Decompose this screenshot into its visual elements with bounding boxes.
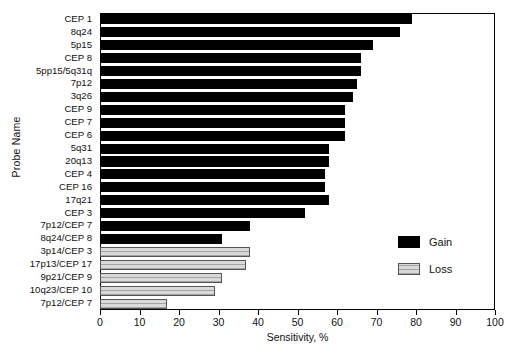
- y-tick-label: 3q26: [0, 91, 92, 101]
- table-row: [100, 144, 495, 154]
- table-row: [100, 92, 495, 102]
- y-tick-label: CEP 1: [0, 14, 92, 24]
- table-row: [100, 156, 495, 166]
- y-tick-label: 3p14/CEP 3: [0, 246, 92, 256]
- bar-gain: [100, 208, 305, 218]
- legend-item-loss: Loss: [398, 259, 494, 279]
- bar-gain: [100, 234, 222, 244]
- bar-gain: [100, 195, 329, 205]
- y-tick-label: 8q24: [0, 27, 92, 37]
- y-tick-label: 17q21: [0, 195, 92, 205]
- sensitivity-bar-chart: Probe Name CEP 18q245p15CEP 85pp15/5q31q…: [0, 0, 518, 354]
- legend-item-gain: Gain: [398, 232, 494, 252]
- y-tick-label: CEP 9: [0, 104, 92, 114]
- x-axis-title: Sensitivity, %: [100, 331, 495, 343]
- table-row: [100, 169, 495, 179]
- x-tick-mark: [377, 310, 378, 315]
- x-tick-mark: [416, 310, 417, 315]
- chart-legend: GainLoss: [398, 232, 494, 286]
- bar-loss: [100, 247, 250, 257]
- x-tick-mark: [495, 310, 496, 315]
- x-tick-label: 10: [120, 316, 160, 328]
- x-tick-label: 20: [159, 316, 199, 328]
- table-row: [100, 105, 495, 115]
- bar-loss: [100, 273, 222, 283]
- table-row: [100, 53, 495, 63]
- y-tick-label: 10q23/CEP 10: [0, 285, 92, 295]
- table-row: [100, 118, 495, 128]
- legend-label: Loss: [429, 263, 452, 275]
- x-tick-label-group: 0102030405060708090100: [100, 316, 495, 330]
- x-tick-mark: [140, 310, 141, 315]
- y-tick-label: CEP 7: [0, 117, 92, 127]
- table-row: [100, 221, 495, 231]
- table-row: [100, 14, 495, 24]
- y-tick-label: 5pp15/5q31q: [0, 66, 92, 76]
- x-tick-label: 40: [238, 316, 278, 328]
- bar-gain: [100, 40, 373, 50]
- x-tick-mark: [258, 310, 259, 315]
- y-tick-label: 20q13: [0, 156, 92, 166]
- y-tick-label: CEP 3: [0, 208, 92, 218]
- y-tick-label: 9p21/CEP 9: [0, 272, 92, 282]
- bar-gain: [100, 27, 400, 37]
- bar-gain: [100, 105, 345, 115]
- y-tick-label-group: CEP 18q245p15CEP 85pp15/5q31q7p123q26CEP…: [0, 13, 96, 310]
- y-tick-label: 17p13/CEP 17: [0, 259, 92, 269]
- x-tick-label: 30: [199, 316, 239, 328]
- y-tick-label: CEP 8: [0, 53, 92, 63]
- table-row: [100, 40, 495, 50]
- x-tick-mark: [337, 310, 338, 315]
- table-row: [100, 27, 495, 37]
- x-tick-label: 0: [80, 316, 120, 328]
- bar-gain: [100, 169, 325, 179]
- x-tick-label: 60: [317, 316, 357, 328]
- legend-swatch-gain: [398, 236, 420, 248]
- table-row: [100, 195, 495, 205]
- bar-gain: [100, 79, 357, 89]
- bar-gain: [100, 144, 329, 154]
- table-row: [100, 66, 495, 76]
- x-tick-mark: [456, 310, 457, 315]
- y-tick-label: 7p12: [0, 78, 92, 88]
- table-row: [100, 208, 495, 218]
- bar-loss: [100, 299, 167, 309]
- y-tick-label: CEP 16: [0, 182, 92, 192]
- x-tick-mark: [100, 310, 101, 315]
- x-tick-mark: [298, 310, 299, 315]
- y-tick-label: CEP 6: [0, 130, 92, 140]
- table-row: [100, 79, 495, 89]
- bar-gain: [100, 182, 325, 192]
- x-tick-label: 90: [436, 316, 476, 328]
- bar-gain: [100, 66, 361, 76]
- bar-loss: [100, 260, 246, 270]
- table-row: [100, 131, 495, 141]
- bar-gain: [100, 14, 412, 24]
- y-tick-label: 5q31: [0, 143, 92, 153]
- bar-gain: [100, 131, 345, 141]
- x-tick-mark: [179, 310, 180, 315]
- y-tick-label: 5p15: [0, 40, 92, 50]
- table-row: [100, 299, 495, 309]
- bar-loss: [100, 286, 215, 296]
- legend-swatch-loss: [398, 263, 420, 275]
- table-row: [100, 286, 495, 296]
- legend-label: Gain: [429, 236, 452, 248]
- x-tick-mark: [219, 310, 220, 315]
- y-tick-label: 8q24/CEP 8: [0, 233, 92, 243]
- x-tick-label: 100: [475, 316, 515, 328]
- bar-gain: [100, 92, 353, 102]
- bar-gain: [100, 53, 361, 63]
- table-row: [100, 182, 495, 192]
- bar-gain: [100, 156, 329, 166]
- y-tick-label: 7p12/CEP 7: [0, 220, 92, 230]
- x-tick-label: 80: [396, 316, 436, 328]
- y-tick-label: CEP 4: [0, 169, 92, 179]
- x-tick-label: 70: [357, 316, 397, 328]
- x-tick-label: 50: [278, 316, 318, 328]
- bar-gain: [100, 118, 345, 128]
- y-tick-label: 7p12/CEP 7: [0, 298, 92, 308]
- bar-gain: [100, 221, 250, 231]
